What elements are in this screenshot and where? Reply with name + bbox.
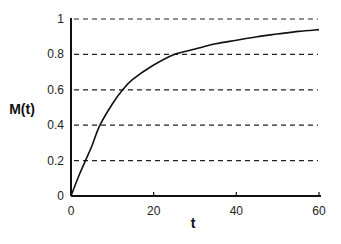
chart: 0204060 00.20.40.60.81 t M(t) — [0, 0, 341, 244]
x-tick-label: 60 — [312, 204, 326, 218]
axes — [71, 18, 321, 196]
y-tick-label: 0.4 — [47, 118, 64, 132]
y-axis-label: M(t) — [9, 101, 35, 117]
y-tick-label: 0.8 — [47, 47, 64, 61]
x-tick-label: 0 — [68, 204, 75, 218]
y-ticks: 00.20.40.60.81 — [47, 12, 64, 203]
gridlines — [74, 19, 318, 161]
y-tick-label: 0 — [57, 189, 64, 203]
y-tick-label: 1 — [57, 12, 64, 26]
x-tick-label: 20 — [147, 204, 161, 218]
y-tick-label: 0.6 — [47, 83, 64, 97]
x-axis-label: t — [191, 215, 196, 231]
y-tick-label: 0.2 — [47, 154, 64, 168]
x-tick-label: 40 — [230, 204, 244, 218]
